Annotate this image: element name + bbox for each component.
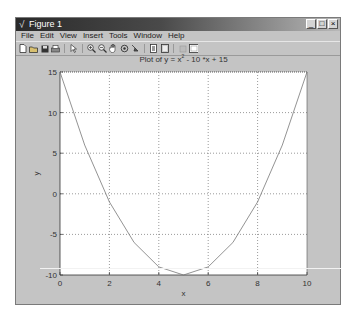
x-tick-label: 0: [58, 279, 63, 288]
y-tick-label: -10: [45, 271, 57, 280]
y-tick-label: 10: [48, 109, 57, 118]
x-tick-label: 10: [303, 279, 312, 288]
y-tick-label: 5: [53, 149, 58, 158]
x-axis-label: x: [182, 289, 186, 298]
y-tick-label: -5: [50, 230, 58, 239]
y-axis-label: y: [32, 172, 41, 176]
x-tick-label: 4: [157, 279, 162, 288]
x-tick-label: 6: [206, 279, 211, 288]
y-tick-label: 0: [53, 190, 58, 199]
line-chart: 0246810-10-5051015xy: [0, 0, 357, 320]
scan-line: [40, 268, 341, 269]
x-tick-label: 8: [255, 279, 260, 288]
y-tick-label: 15: [48, 68, 57, 77]
x-tick-label: 2: [107, 279, 112, 288]
